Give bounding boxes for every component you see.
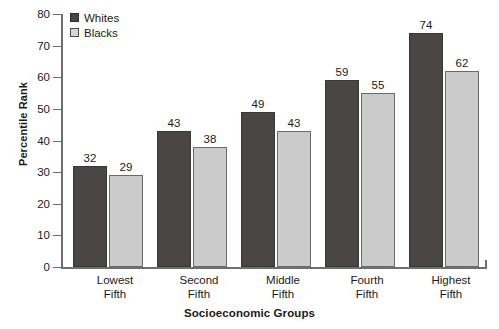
bar-whites-second-fifth[interactable] (157, 131, 191, 267)
bar-group: 4943 (241, 14, 325, 267)
bar-blacks-fourth-fifth[interactable] (361, 93, 395, 267)
x-axis-line (61, 267, 487, 269)
bar-whites-fourth-fifth[interactable] (325, 80, 359, 267)
y-axis-tick (53, 46, 62, 47)
y-axis-tick-label: 60 (4, 71, 50, 83)
bar-value-label: 43 (154, 117, 194, 129)
category-label-line: Highest (396, 274, 499, 288)
bar-blacks-second-fifth[interactable] (193, 147, 227, 267)
bar-value-label: 29 (106, 161, 146, 173)
y-axis-tick (53, 141, 62, 142)
x-axis-title: Socioeconomic Groups (0, 307, 499, 319)
plot-area: 32294338494359557462 (63, 14, 487, 267)
bar-blacks-lowest-fifth[interactable] (109, 175, 143, 267)
y-axis-tick-label: 40 (4, 135, 50, 147)
bar-value-label: 32 (70, 152, 110, 164)
bar-whites-lowest-fifth[interactable] (73, 166, 107, 267)
category-label-line: Fifth (396, 288, 499, 302)
bar-value-label: 49 (238, 98, 278, 110)
y-axis-tick (53, 14, 62, 15)
bar-value-label: 55 (358, 79, 398, 91)
x-axis-category-label: HighestFifth (396, 274, 499, 301)
y-axis-tick (53, 235, 62, 236)
bar-chart: Percentile Rank 01020304050607080 Whites… (0, 0, 499, 329)
bar-blacks-middle-fifth[interactable] (277, 131, 311, 267)
y-axis-tick-label: 70 (4, 40, 50, 52)
y-axis-tick (53, 172, 62, 173)
bar-value-label: 38 (190, 133, 230, 145)
bar-whites-middle-fifth[interactable] (241, 112, 275, 267)
y-axis-tick-label: 20 (4, 198, 50, 210)
bar-group: 5955 (325, 14, 409, 267)
bar-group: 3229 (73, 14, 157, 267)
bar-value-label: 62 (442, 57, 482, 69)
y-axis-tick (53, 267, 62, 268)
y-axis-tick (53, 77, 62, 78)
y-axis-tick-label: 30 (4, 166, 50, 178)
y-axis-tick (53, 109, 62, 110)
bar-blacks-highest-fifth[interactable] (445, 71, 479, 267)
bar-value-label: 43 (274, 117, 314, 129)
bar-group: 4338 (157, 14, 241, 267)
y-axis-tick-label: 50 (4, 103, 50, 115)
bar-value-label: 59 (322, 66, 362, 78)
bar-whites-highest-fifth[interactable] (409, 33, 443, 267)
bar-group: 7462 (409, 14, 493, 267)
y-axis-tick-label: 0 (4, 261, 50, 273)
y-axis-tick (53, 204, 62, 205)
y-axis-tick-label: 10 (4, 229, 50, 241)
y-axis-tick-label: 80 (4, 8, 50, 20)
bar-value-label: 74 (406, 19, 446, 31)
cropped-title-remnant (0, 0, 499, 1)
